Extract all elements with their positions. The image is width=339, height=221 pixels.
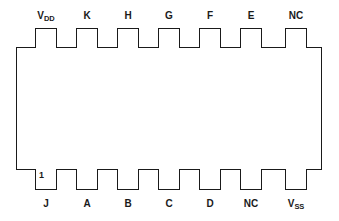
pin-label-top-5-text: F bbox=[207, 10, 213, 21]
pin-label-top-7: NC bbox=[272, 11, 320, 21]
pin-pad-bottom-5 bbox=[199, 169, 221, 190]
pin-pad-bottom-2 bbox=[76, 169, 98, 190]
pin-pad-top-2 bbox=[76, 28, 98, 48]
pin-label-bottom-3-text: B bbox=[124, 198, 131, 209]
pin-label-bottom-6: NC bbox=[227, 199, 275, 209]
pin-pad-top-5 bbox=[199, 28, 221, 48]
pin-pad-top-3 bbox=[117, 28, 139, 48]
pin-label-top-2-text: K bbox=[83, 10, 90, 21]
pin-label-top-4-text: G bbox=[165, 10, 173, 21]
pin-label-bottom-4-text: C bbox=[165, 198, 172, 209]
pin-one-marker: 1 bbox=[39, 171, 44, 180]
pin-pad-bottom-3 bbox=[117, 169, 139, 190]
pin-pad-top-6 bbox=[240, 28, 262, 48]
ic-pinout-diagram: 1 VDD K H G F E NC J A B C D NC VSS bbox=[0, 0, 339, 221]
pin-pad-bottom-7 bbox=[285, 169, 307, 190]
pin-pad-bottom-4 bbox=[158, 169, 180, 190]
pin-label-top-1-text: V bbox=[37, 10, 44, 21]
pin-label-bottom-1-text: J bbox=[43, 198, 49, 209]
pin-label-top-3-text: H bbox=[124, 10, 131, 21]
pin-pad-top-1 bbox=[35, 28, 57, 48]
pin-label-bottom-7-subscript: SS bbox=[294, 202, 304, 211]
pin-pad-top-4 bbox=[158, 28, 180, 48]
pin-label-top-6: E bbox=[227, 11, 275, 21]
pin-label-top-7-text: NC bbox=[289, 10, 303, 21]
pin-label-top-1-subscript: DD bbox=[44, 14, 55, 23]
ic-package-body bbox=[16, 47, 322, 170]
pin-label-bottom-6-text: NC bbox=[244, 198, 258, 209]
pin-label-bottom-7: VSS bbox=[272, 199, 320, 209]
pin-label-bottom-5-text: D bbox=[206, 198, 213, 209]
pin-label-top-6-text: E bbox=[248, 10, 255, 21]
pin-pad-bottom-6 bbox=[240, 169, 262, 190]
pin-pad-bottom-1: 1 bbox=[35, 169, 57, 190]
pin-pad-top-7 bbox=[285, 28, 307, 48]
pin-label-bottom-2-text: A bbox=[83, 198, 90, 209]
